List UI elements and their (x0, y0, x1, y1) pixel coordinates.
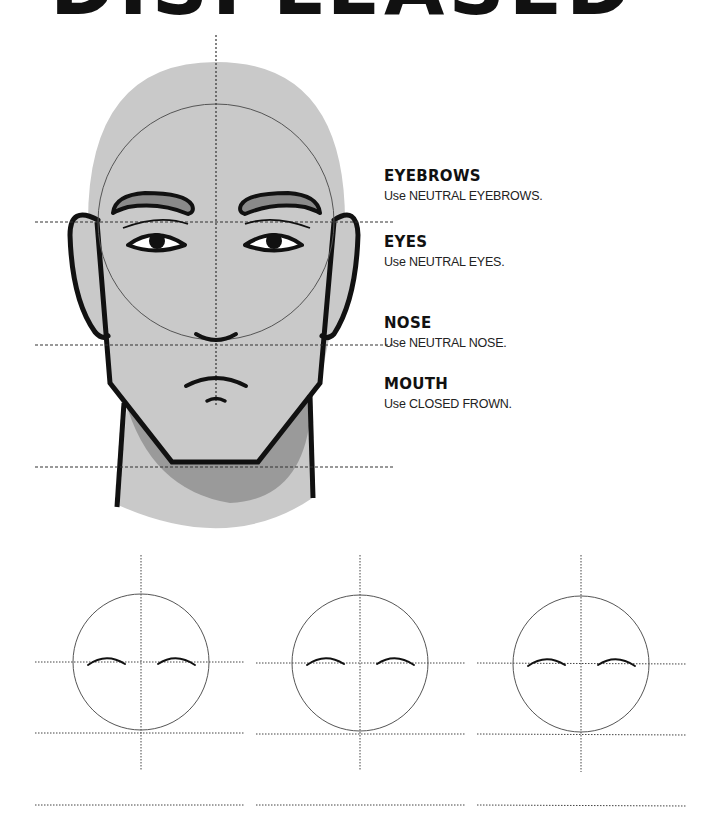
eyebrows-instruction: EYEBROWS Use NEUTRAL EYEBROWS. (384, 167, 543, 204)
neck-right-outline (310, 395, 313, 498)
nose-description: Use NEUTRAL NOSE. (384, 335, 507, 351)
mouth-instruction: MOUTH Use CLOSED FROWN. (384, 375, 512, 412)
eyebrows-description: Use NEUTRAL EYEBROWS. (384, 188, 543, 204)
nose-instruction: NOSE Use NEUTRAL NOSE. (384, 314, 507, 351)
mouth-heading: MOUTH (384, 375, 512, 393)
practice-circle-3 (477, 555, 686, 806)
eyes-heading: EYES (384, 233, 504, 251)
nose-heading: NOSE (384, 314, 507, 332)
eyes-description: Use NEUTRAL EYES. (384, 254, 504, 270)
practice-circle-2 (256, 555, 465, 805)
mouth-description: Use CLOSED FROWN. (384, 396, 512, 412)
eyes-instruction: EYES Use NEUTRAL EYES. (384, 233, 504, 270)
practice-circle-1 (35, 555, 245, 805)
eyebrows-heading: EYEBROWS (384, 167, 543, 185)
face-guide-illustration (0, 0, 713, 822)
